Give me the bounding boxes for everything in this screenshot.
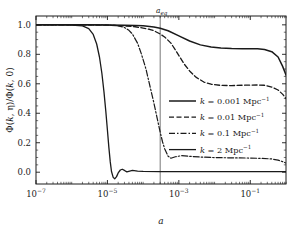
legend-label-1: k = 0.01 Mpc−1 — [200, 112, 264, 122]
y-tick-label-3: 0.6 — [17, 79, 31, 89]
figure-container: 10−710−510−310−1 0.00.20.40.60.81.0 aeq … — [0, 0, 299, 229]
x-axis-title: a — [158, 216, 163, 226]
y-axis-title-text: Φ(k, η)/Φ(k, 0) — [5, 67, 15, 132]
y-tick-label-0: 0.0 — [17, 167, 31, 177]
y-tick-label-4: 0.8 — [17, 49, 31, 59]
y-tick-label-5: 1.0 — [17, 20, 31, 30]
y-axis-title: Φ(k, η)/Φ(k, 0) — [5, 67, 15, 132]
y-tick-label-1: 0.2 — [17, 138, 31, 148]
legend-label-2: k = 0.1 Mpc−1 — [200, 128, 259, 138]
y-tick-label-2: 0.4 — [17, 108, 31, 118]
legend-label-0: k = 0.001 Mpc−1 — [200, 96, 270, 106]
chart-plot: 10−710−510−310−1 0.00.20.40.60.81.0 aeq … — [0, 0, 299, 229]
